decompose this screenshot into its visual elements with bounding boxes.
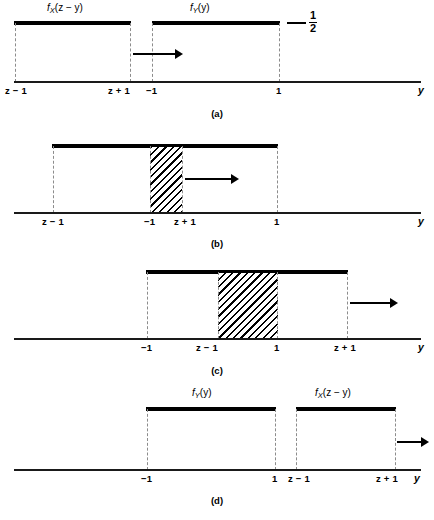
density-bar-fy-a [152, 21, 280, 25]
density-bar-fy-d [146, 407, 276, 411]
tick-label-b-2: z + 1 [174, 216, 196, 227]
tick-label-a-3: 1 [276, 85, 281, 96]
dashed-edge-neg1-d [147, 409, 148, 470]
tick-label-a-0: z − 1 [5, 85, 27, 96]
tick-label-d-3: z + 1 [376, 473, 398, 484]
arrow-shaft [133, 53, 175, 55]
tick-label-c-0: −1 [141, 342, 152, 353]
tick-label-b-1: −1 [144, 216, 155, 227]
overlap-region-b [150, 147, 182, 213]
function-label-fy-d: fY(y) [192, 387, 211, 400]
arrow-shaft [397, 441, 421, 443]
dashed-edge-z-plus-1-b [182, 146, 183, 213]
fn-arg: (z − y) [55, 2, 83, 13]
arrow-head [231, 174, 239, 184]
axis-label-y-d: y [414, 472, 420, 484]
amplitude-numerator: 1 [309, 10, 317, 23]
dashed-edge-z-minus-1-d [296, 409, 297, 470]
function-label-fx-a: fX(z − y) [47, 2, 83, 15]
tick-label-c-1: z − 1 [196, 342, 218, 353]
x-axis-b [14, 212, 421, 214]
x-axis-a [14, 81, 421, 83]
panel-b: z − 1 −1 z + 1 1 y (b) [0, 130, 434, 255]
dashed-edge-neg1-b [150, 146, 151, 213]
dashed-edge-pos1-b [277, 146, 278, 213]
dashed-edge-z-minus-1-b [53, 146, 54, 213]
tick-label-d-2: z − 1 [288, 473, 310, 484]
panel-caption-d: (d) [0, 495, 434, 506]
fn-arg: (z − y) [323, 387, 351, 398]
x-axis-c [14, 338, 421, 340]
panel-a: fX(z − y) fY(y) 1 2 z − 1 z + 1 −1 1 [0, 0, 434, 130]
slide-arrow-c [350, 298, 408, 308]
arrow-shaft [350, 302, 390, 304]
dashed-edge-z-plus-1-d [395, 409, 396, 470]
axis-label-y-b: y [418, 215, 424, 227]
tick-label-a-1: z + 1 [108, 85, 130, 96]
function-label-fx-d: fX(z − y) [315, 387, 351, 400]
tick-label-d-0: −1 [141, 473, 152, 484]
panel-c: −1 z − 1 1 z + 1 y (c) [0, 255, 434, 385]
amplitude-label-half-a: 1 2 [309, 10, 317, 34]
dashed-edge-neg1-c [147, 272, 148, 339]
overlap-region-c [218, 273, 278, 339]
x-axis-d [14, 469, 421, 471]
dashed-edge-z-minus-1-c [218, 272, 219, 339]
function-label-fy-a: fY(y) [190, 2, 209, 15]
tick-label-c-2: 1 [274, 342, 279, 353]
slide-arrow-a [133, 49, 183, 59]
dashed-edge-z-plus-1-c [347, 272, 348, 339]
arrow-head [421, 437, 429, 447]
amplitude-denominator: 2 [309, 23, 317, 35]
amplitude-dash-a [287, 22, 306, 24]
dashed-edge-pos1-d [275, 409, 276, 470]
fn-arg: (y) [198, 2, 210, 13]
fn-arg: (y) [200, 387, 212, 398]
density-bar-fx-a [14, 21, 131, 25]
arrow-head [175, 49, 183, 59]
tick-label-b-3: 1 [274, 216, 279, 227]
panel-caption-c: (c) [0, 365, 434, 376]
tick-label-c-3: z + 1 [334, 342, 356, 353]
arrow-shaft [185, 178, 231, 180]
panel-caption-b: (b) [0, 238, 434, 249]
dashed-edge-z-plus-1-a [130, 23, 131, 82]
tick-label-a-2: −1 [146, 85, 157, 96]
tick-label-b-0: z − 1 [42, 216, 64, 227]
tick-label-d-1: 1 [272, 473, 277, 484]
arrow-head [390, 298, 398, 308]
dashed-edge-pos1-c [277, 272, 278, 339]
slide-arrow-d [397, 437, 431, 447]
figure-convolution-uniform-densities: fX(z − y) fY(y) 1 2 z − 1 z + 1 −1 1 [0, 0, 434, 520]
panel-d: fY(y) fX(z − y) −1 1 z − 1 z + 1 y (d) [0, 385, 434, 520]
axis-label-y-c: y [418, 341, 424, 353]
panel-caption-a: (a) [0, 108, 434, 119]
slide-arrow-b [185, 174, 241, 184]
dashed-edge-z-minus-1-a [15, 23, 16, 82]
axis-label-y-a: y [418, 84, 424, 96]
density-bar-fx-d [296, 407, 396, 411]
dashed-edge-pos1-a [279, 23, 280, 82]
